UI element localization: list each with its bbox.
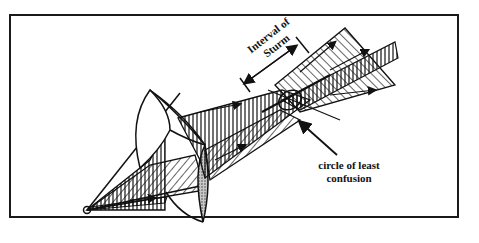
circle-label-line1: circle of least: [304, 159, 394, 172]
circle-of-least-confusion-label: circle of least confusion: [304, 159, 394, 185]
circle-label-line2: confusion: [304, 172, 394, 185]
astigmatism-diagram: [0, 0, 479, 243]
arrow-icon: [300, 122, 337, 155]
